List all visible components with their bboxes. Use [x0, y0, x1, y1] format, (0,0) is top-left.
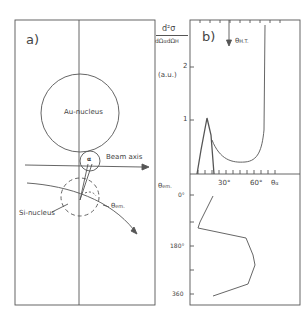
narrow-peak-curve: [197, 118, 214, 174]
panel-a-frame: [15, 20, 155, 305]
x-ticks: [198, 170, 275, 174]
ylabel-numerator: d²σ: [162, 25, 175, 33]
au-nucleus-label: Au-nucleus: [64, 109, 103, 116]
beam-axis-line: [25, 165, 142, 167]
figure-canvas: [0, 0, 304, 322]
emission-angle-curve: [198, 196, 255, 296]
ylabel-unit: (a.u.): [158, 72, 177, 79]
lower-y-axis-label: θem.: [158, 183, 172, 190]
lower-ytick-180: 180°: [170, 243, 184, 249]
beam-axis-arrowhead: [142, 164, 149, 170]
ylabel-denominator: dΩαdΩH: [155, 38, 179, 44]
theta-ht-label: θH.T.: [235, 38, 249, 45]
theta-em-label: θem.: [111, 203, 125, 210]
ytick-2: 2: [183, 63, 187, 70]
x-axis-label: θα: [271, 180, 279, 187]
lower-ytick-0: 0°: [178, 192, 185, 198]
xtick-30: 30°: [218, 180, 230, 187]
panel-b-frame: [190, 20, 300, 305]
alpha-label: α: [87, 156, 91, 162]
si-nucleus-circle: [61, 178, 99, 216]
si-nucleus-label: Si-nucleus: [19, 210, 55, 217]
panel-a-label: a): [26, 33, 39, 46]
lower-ytick-360: 360: [172, 291, 183, 297]
broad-curve: [212, 25, 265, 162]
panel-b-label: b): [202, 30, 215, 43]
ylabel-fraction-bar: [156, 35, 188, 36]
xtick-60: 60°: [250, 180, 262, 187]
ytick-1: 1: [183, 116, 187, 123]
beam-axis-label: Beam axis: [106, 154, 142, 161]
